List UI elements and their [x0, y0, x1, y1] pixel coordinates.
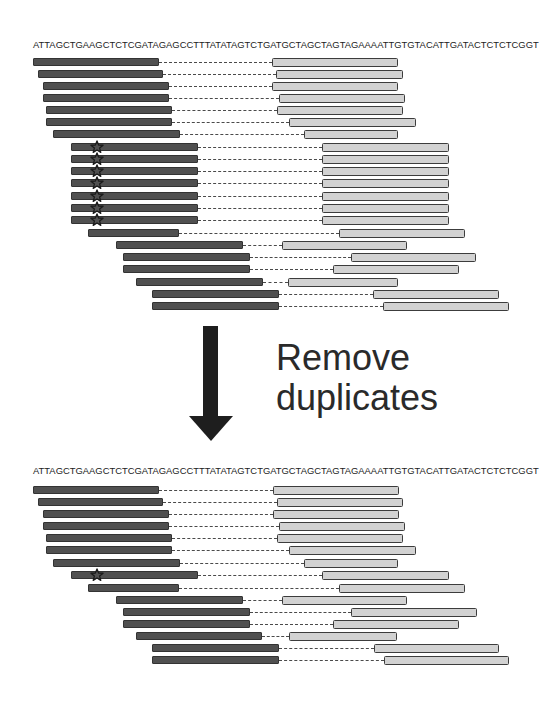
read2-bar [333, 620, 459, 629]
read1-bar [136, 632, 262, 640]
read1-bar [46, 534, 172, 542]
read-pair-before-14 [0, 216, 542, 225]
read1-bar [136, 278, 263, 286]
read2-bar [351, 253, 476, 262]
read1-bar [152, 302, 279, 310]
read1-bar [123, 265, 250, 273]
insert-gap-dashed-line [198, 196, 322, 197]
insert-gap-dashed-line [169, 514, 273, 515]
read-pair-before-6 [0, 118, 542, 127]
read2-bar [384, 656, 509, 665]
read2-bar [322, 192, 449, 201]
read2-bar [383, 302, 509, 311]
read2-bar [273, 486, 399, 495]
read2-bar [282, 241, 407, 250]
read2-bar [333, 265, 459, 274]
read-pair-after-12 [0, 620, 542, 629]
read1-bar [38, 70, 163, 78]
read2-bar [322, 216, 449, 225]
star-icon [90, 568, 104, 582]
read1-bar [88, 584, 179, 592]
read2-bar [339, 584, 465, 593]
read2-bar [322, 155, 449, 164]
read1-bar [46, 118, 172, 126]
insert-gap-dashed-line [169, 86, 272, 87]
read1-bar [43, 510, 169, 518]
read2-bar [279, 94, 405, 103]
read-pair-before-20 [0, 290, 542, 299]
insert-gap-dashed-line [243, 600, 282, 601]
read-pair-before-11 [0, 179, 542, 188]
read2-bar [373, 290, 499, 299]
read1-bar [116, 596, 243, 604]
read-pair-before-7 [0, 130, 542, 139]
read1-bar [46, 546, 172, 554]
read-pair-before-4 [0, 94, 542, 103]
read-pair-after-1 [0, 486, 542, 495]
read1-bar [43, 82, 169, 90]
read1-bar [38, 498, 163, 506]
read-pair-after-14 [0, 644, 542, 653]
read1-bar [53, 130, 180, 138]
insert-gap-dashed-line [198, 171, 322, 172]
read-pair-before-5 [0, 106, 542, 115]
read1-bar [152, 644, 279, 652]
read-pair-after-2 [0, 498, 542, 507]
reference-sequence-before: ATTAGCTGAAGCTCTCGATAGAGCCTTTATATAGTCTGAT… [33, 40, 539, 50]
read2-bar [374, 644, 499, 653]
read-pair-after-15 [0, 656, 542, 665]
star-icon [90, 213, 104, 227]
read2-bar [272, 82, 398, 91]
read2-bar [289, 632, 397, 641]
read1-bar [152, 290, 279, 298]
read2-bar [351, 608, 477, 617]
read2-bar [289, 118, 416, 127]
read-pair-after-13 [0, 632, 542, 641]
read2-bar [279, 522, 405, 531]
read-pair-before-18 [0, 265, 542, 274]
read1-bar [33, 486, 159, 494]
arrow-down-icon [189, 326, 233, 441]
insert-gap-dashed-line [169, 526, 279, 527]
read2-bar [273, 510, 399, 519]
insert-gap-dashed-line [172, 538, 277, 539]
read2-bar [322, 204, 449, 213]
read-pair-after-7 [0, 559, 542, 568]
insert-gap-dashed-line [179, 233, 339, 234]
insert-gap-dashed-line [250, 257, 351, 258]
read1-bar [53, 559, 180, 567]
read1-bar [116, 241, 243, 249]
insert-gap-dashed-line [263, 282, 288, 283]
read2-bar [288, 278, 398, 287]
read1-bar [46, 106, 172, 114]
read-pair-before-19 [0, 278, 542, 287]
read2-bar [276, 70, 403, 79]
read1-bar [33, 58, 159, 66]
read2-bar [322, 143, 449, 152]
read-pair-before-9 [0, 155, 542, 164]
read2-bar [304, 559, 398, 568]
read2-bar [277, 106, 403, 115]
label-line-1: Remove [276, 338, 438, 378]
star-icon [90, 176, 104, 190]
read1-bar [43, 522, 169, 530]
read-pair-before-10 [0, 167, 542, 176]
read-pair-before-13 [0, 204, 542, 213]
read2-bar [282, 596, 407, 605]
read-pair-after-11 [0, 608, 542, 617]
insert-gap-dashed-line [250, 269, 333, 270]
read1-bar [123, 620, 250, 628]
read1-bar [43, 94, 169, 102]
read2-bar [289, 546, 416, 555]
read1-bar [152, 656, 279, 664]
insert-gap-dashed-line [198, 575, 322, 576]
read2-bar [272, 58, 398, 67]
insert-gap-dashed-line [198, 220, 322, 221]
read-pair-before-12 [0, 192, 542, 201]
reference-sequence-after: ATTAGCTGAAGCTCTCGATAGAGCCTTTATATAGTCTGAT… [33, 466, 539, 476]
insert-gap-dashed-line [163, 502, 277, 503]
read1-bar [123, 608, 250, 616]
read2-bar [277, 534, 403, 543]
insert-gap-dashed-line [250, 624, 333, 625]
insert-gap-dashed-line [262, 636, 289, 637]
